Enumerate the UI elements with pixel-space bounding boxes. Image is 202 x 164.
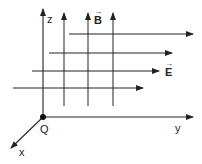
y-axis-label: y — [175, 122, 181, 134]
magnetic-field-lines — [64, 13, 113, 106]
x-axis — [11, 117, 43, 148]
z-axis-label: z — [47, 13, 53, 25]
e-vector-arrow-icon: → — [165, 59, 173, 68]
field-diagram: z y x Q B → E → — [0, 0, 202, 164]
origin-charge-dot — [40, 114, 46, 120]
b-vector-arrow-icon: → — [94, 7, 102, 16]
x-axis-label: x — [19, 146, 25, 158]
origin-label: Q — [40, 123, 49, 135]
